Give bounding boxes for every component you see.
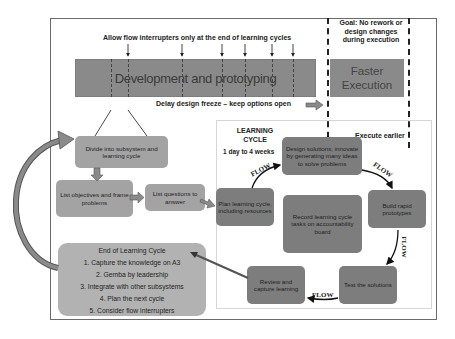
review-to-end-connector [194, 254, 248, 278]
flow-arrow-test-review [308, 298, 338, 300]
flow-arrow-design-build [362, 170, 392, 188]
down-arrow-icon [128, 44, 293, 56]
zoom-line-right [128, 110, 147, 136]
flow-arrow-plan-design [252, 165, 280, 188]
block-arrow-icon [200, 199, 215, 208]
connectors-layer [0, 0, 455, 339]
zoom-line-left [95, 110, 111, 136]
block-arrow-icon [91, 168, 103, 181]
flow-arrow-build-test [387, 230, 398, 264]
curved-arrow-icon [16, 140, 62, 268]
curved-arrow-head [58, 131, 74, 149]
block-arrow-icon [130, 192, 144, 203]
block-arrow-icon [306, 100, 323, 110]
